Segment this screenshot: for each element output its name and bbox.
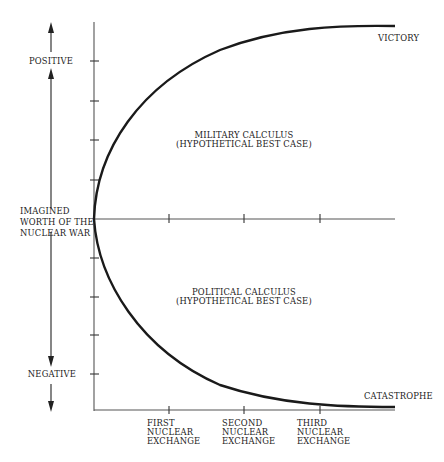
political-calculus-curve	[94, 219, 395, 407]
x-label-third-exchange: THIRD NUCLEAR EXCHANGE	[297, 418, 350, 446]
arrow-up-icon	[48, 68, 54, 79]
catastrophe-label: CATASTROPHE	[364, 391, 433, 401]
x-label-second-exchange: SECOND NUCLEAR EXCHANGE	[222, 418, 275, 446]
victory-label: VICTORY	[377, 33, 419, 43]
military-calculus-label: MILITARY CALCULUS (HYPOTHETICAL BEST CAS…	[176, 130, 312, 149]
svg-text:WORTH OF THE: WORTH OF THE	[20, 217, 94, 227]
svg-text:(HYPOTHETICAL BEST CASE): (HYPOTHETICAL BEST CASE)	[176, 296, 312, 306]
svg-text:IMAGINED: IMAGINED	[20, 206, 70, 216]
svg-text:EXCHANGE: EXCHANGE	[222, 436, 275, 446]
negative-label: NEGATIVE	[28, 369, 76, 379]
arrow-up-icon	[48, 22, 54, 33]
positive-label: POSITIVE	[29, 56, 73, 66]
arrow-down-icon	[48, 356, 54, 367]
political-calculus-label: POLITICAL CALCULUS (HYPOTHETICAL BEST CA…	[176, 287, 312, 306]
svg-text:NUCLEAR WAR: NUCLEAR WAR	[20, 228, 91, 238]
svg-text:EXCHANGE: EXCHANGE	[147, 436, 200, 446]
x-label-first-exchange: FIRST NUCLEAR EXCHANGE	[147, 418, 200, 446]
svg-text:(HYPOTHETICAL BEST CASE): (HYPOTHETICAL BEST CASE)	[176, 139, 312, 149]
arrow-down-icon	[48, 401, 54, 412]
y-axis-title: IMAGINED WORTH OF THE NUCLEAR WAR	[20, 206, 94, 238]
svg-text:EXCHANGE: EXCHANGE	[297, 436, 350, 446]
military-calculus-curve	[94, 26, 395, 219]
diagram: POSITIVE NEGATIVE IMAGINED WORTH OF THE …	[0, 0, 444, 462]
